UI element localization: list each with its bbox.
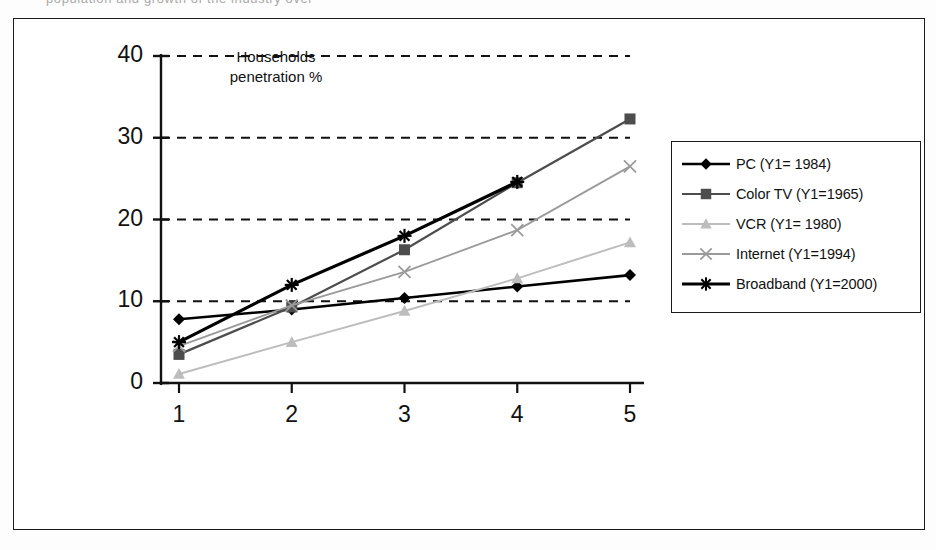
annotation-line-2: penetration %	[186, 67, 366, 87]
x-axis-tick-label: 4	[497, 401, 537, 428]
star-marker	[680, 274, 732, 294]
triangle-marker	[680, 214, 732, 234]
legend-item[interactable]: PC (Y1= 1984)	[680, 149, 914, 179]
legend-item[interactable]: Broadband (Y1=2000)	[680, 269, 914, 299]
cropped-text-fragment: population and growth of the industry ov…	[46, 0, 476, 7]
y-axis-tick-label: 10	[87, 288, 143, 311]
y-axis-tick-label: 40	[87, 43, 143, 66]
legend-item-label: PC (Y1= 1984)	[736, 156, 831, 172]
y-axis-tick-label: 20	[87, 207, 143, 230]
x-axis-tick-label: 5	[610, 401, 650, 428]
chart-screenshot: population and growth of the industry ov…	[0, 0, 936, 550]
legend-item-label: Color TV (Y1=1965)	[736, 186, 863, 202]
legend-item-label: Internet (Y1=1994)	[736, 246, 856, 262]
y-axis-tick-label: 0	[87, 370, 143, 393]
x-axis-tick-label: 2	[272, 401, 312, 428]
legend-item-label: Broadband (Y1=2000)	[736, 276, 877, 292]
households-penetration-annotation: Households penetration %	[186, 47, 366, 88]
square-marker	[680, 184, 732, 204]
chart-legend: PC (Y1= 1984)Color TV (Y1=1965)VCR (Y1= …	[671, 141, 921, 313]
series-layer	[172, 113, 636, 378]
plot-area: 010203040 12345 Households penetration %…	[14, 19, 926, 531]
diamond-marker	[680, 154, 732, 174]
y-axis-tick-label: 30	[87, 125, 143, 148]
x-axis-tick-label: 3	[385, 401, 425, 428]
legend-item[interactable]: Color TV (Y1=1965)	[680, 179, 914, 209]
axes	[153, 54, 644, 393]
x-axis-tick-label: 1	[159, 401, 199, 428]
legend-item-label: VCR (Y1= 1980)	[736, 216, 841, 232]
chart-frame: 010203040 12345 Households penetration %…	[13, 18, 925, 530]
legend-item[interactable]: Internet (Y1=1994)	[680, 239, 914, 269]
legend-item[interactable]: VCR (Y1= 1980)	[680, 209, 914, 239]
annotation-line-1: Households	[186, 47, 366, 67]
cross-marker	[680, 244, 732, 264]
